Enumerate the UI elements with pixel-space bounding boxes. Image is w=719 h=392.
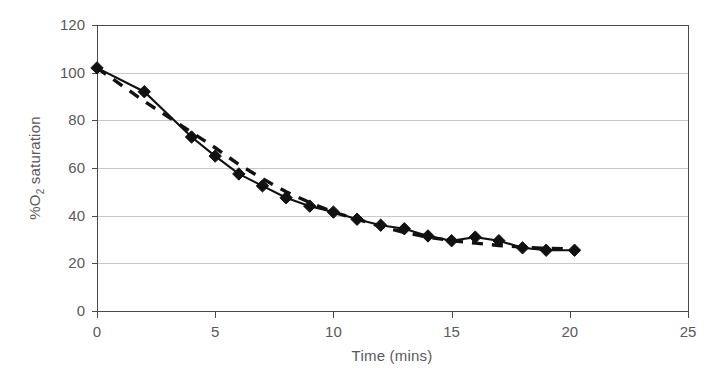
y-axis-label-prefix: %O (26, 194, 43, 219)
y-tick-label-100: 100 (60, 64, 85, 81)
chart-background (0, 0, 719, 392)
x-axis-label: Time (mins) (352, 347, 433, 364)
x-tick-label-0: 0 (93, 323, 101, 340)
x-tick-label-10: 10 (325, 323, 342, 340)
y-tick-label-80: 80 (68, 111, 85, 128)
oxygen-saturation-chart: 020406080100120 0510152025 Time (mins) %… (0, 0, 719, 392)
x-tick-label-25: 25 (680, 323, 697, 340)
y-tick-label-60: 60 (68, 159, 85, 176)
y-tick-label-20: 20 (68, 254, 85, 271)
y-axis-label-suffix: saturation (26, 116, 43, 188)
x-tick-label-15: 15 (443, 323, 460, 340)
x-tick-label-5: 5 (211, 323, 219, 340)
x-tick-label-20: 20 (561, 323, 578, 340)
y-tick-label-40: 40 (68, 207, 85, 224)
y-tick-label-0: 0 (77, 302, 85, 319)
y-tick-label-120: 120 (60, 16, 85, 33)
